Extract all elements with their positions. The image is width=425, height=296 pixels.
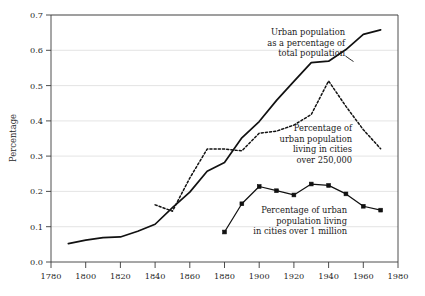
y-tick-label-0.3: 0.3 <box>30 151 43 161</box>
annotation-cities-1m: Percentage of urban population living in… <box>253 205 347 236</box>
y-tick-labels: 0.7 0.6 0.5 0.4 0.3 0.2 0.1 0.0 <box>30 10 43 267</box>
annot-total-population-line-1: Urban population <box>271 27 346 37</box>
annot-cities-1m-line-1: Percentage of urban <box>261 205 347 215</box>
data-point-marker <box>223 230 227 234</box>
y-tick-label-0.0: 0.0 <box>30 257 43 267</box>
x-tick-label-1820: 1820 <box>110 271 131 281</box>
chart-container: 0.7 0.6 0.5 0.4 0.3 0.2 0.1 0.0 1780 <box>0 0 425 296</box>
y-tick-label-0.6: 0.6 <box>30 45 43 55</box>
x-tick-label-1860: 1860 <box>179 271 200 281</box>
x-tick-label-1940: 1940 <box>318 271 339 281</box>
line-chart: 0.7 0.6 0.5 0.4 0.3 0.2 0.1 0.0 1780 <box>0 0 425 296</box>
x-tick-label-1840: 1840 <box>145 271 166 281</box>
data-point-marker <box>344 192 348 196</box>
annot-cities-250k-line-4: over 250,000 <box>296 155 352 165</box>
annot-cities-250k-line-1: Percentage of <box>294 123 353 133</box>
y-tick-label-0.5: 0.5 <box>30 81 43 91</box>
x-tick-marks <box>51 262 398 268</box>
x-tick-label-1960: 1960 <box>353 271 374 281</box>
data-point-marker <box>379 208 383 212</box>
y-tick-label-0.4: 0.4 <box>30 116 43 126</box>
annot-total-population-line-2: as a percentage of <box>267 38 346 48</box>
data-point-marker <box>257 185 261 189</box>
data-point-marker <box>361 204 365 208</box>
annot-cities-250k-line-3: living in cities <box>293 144 352 154</box>
x-tick-label-1880: 1880 <box>214 271 235 281</box>
x-tick-labels: 1780 1800 1820 1840 1860 1880 1900 1920 … <box>41 271 409 281</box>
annot-cities-1m-line-3: in cities over 1 million <box>253 226 347 236</box>
data-point-marker <box>240 202 244 206</box>
x-tick-label-1800: 1800 <box>75 271 96 281</box>
y-tick-label-0.7: 0.7 <box>30 10 43 20</box>
x-tick-label-1780: 1780 <box>41 271 62 281</box>
annotation-leader-lines <box>346 56 354 62</box>
x-tick-label-1900: 1900 <box>249 271 270 281</box>
data-point-marker <box>327 184 331 188</box>
y-tick-label-0.2: 0.2 <box>30 186 43 196</box>
data-point-marker <box>292 193 296 197</box>
x-tick-label-1920: 1920 <box>283 271 304 281</box>
annot-cities-250k-line-2: urban population <box>280 134 353 144</box>
annotation-total-population: Urban population as a percentage of tota… <box>267 27 346 58</box>
x-tick-label-1980: 1980 <box>388 271 409 281</box>
y-axis-title: Percentage <box>8 114 18 162</box>
annot-cities-1m-line-2: population living <box>276 216 348 226</box>
leader-line-total-population <box>346 56 354 62</box>
y-tick-label-0.1: 0.1 <box>30 222 43 232</box>
data-point-marker <box>309 182 313 186</box>
annotation-cities-250k: Percentage of urban population living in… <box>280 123 353 165</box>
data-point-marker <box>275 189 279 193</box>
y-tick-marks <box>46 15 51 262</box>
annot-total-population-line-3: total population <box>278 48 345 58</box>
